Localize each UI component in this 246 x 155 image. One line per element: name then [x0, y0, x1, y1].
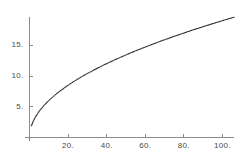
y-tick-label: 15. [0, 41, 24, 49]
plot-area: 20.40.60.80.100. 5.10.15. [0, 0, 246, 155]
x-tick-label: 20. [62, 142, 74, 150]
y-axis-tick-marks [30, 45, 34, 106]
y-tick-label: 10. [0, 72, 24, 80]
chart-canvas [0, 0, 246, 155]
x-axis [25, 134, 235, 138]
y-tick-label: 5. [0, 103, 24, 111]
x-tick-label: 40. [101, 142, 113, 150]
x-axis-tick-marks [68, 134, 222, 138]
x-tick-label: 80. [178, 142, 190, 150]
data-series-curve [31, 17, 235, 127]
curve-dot-path [31, 17, 235, 127]
x-tick-label: 60. [139, 142, 151, 150]
x-tick-label: 100. [214, 142, 231, 150]
